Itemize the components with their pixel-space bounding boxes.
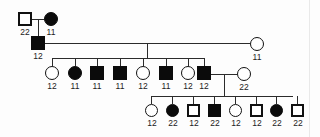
genotype-label-III-3: 11: [87, 82, 107, 91]
sibling-drop-III-2: [75, 58, 76, 66]
sibling-drop-III-4: [120, 58, 121, 66]
individual-III-1-female-unaffected[interactable]: [45, 66, 59, 80]
individual-II-1-male-affected[interactable]: [31, 36, 45, 50]
genotype-label-IV-7: 22: [267, 119, 287, 128]
genotype-label-III-5: 12: [133, 82, 153, 91]
genotype-label-III-4: 11: [110, 82, 130, 91]
sibling-drop-III-6: [166, 58, 167, 66]
genotype-label-IV-2: 22: [163, 119, 183, 128]
individual-IV-1-female-unaffected[interactable]: [145, 104, 158, 117]
descent-line-gen3: [224, 74, 225, 96]
individual-IV-8-male-unaffected[interactable]: [291, 104, 304, 117]
individual-IV-3-male-unaffected[interactable]: [187, 104, 200, 117]
sibling-drop-III-3: [97, 58, 98, 66]
sibling-drop-IV-1: [151, 96, 152, 104]
genotype-label-IV-1: 12: [142, 119, 162, 128]
sibling-drop-IV-4: [214, 96, 215, 104]
genotype-label-IV-5: 12: [226, 119, 246, 128]
sibling-drop-IV-3: [193, 96, 194, 104]
genotype-label-IV-8: 22: [288, 119, 308, 128]
genotype-label-III-6: 11: [156, 82, 176, 91]
individual-III-4-male-affected[interactable]: [113, 66, 127, 80]
individual-III-2-female-affected[interactable]: [68, 66, 82, 80]
individual-II-2-female-unaffected[interactable]: [250, 37, 264, 51]
genotype-label-II-1: 12: [28, 52, 48, 61]
individual-IV-5-female-unaffected[interactable]: [229, 104, 242, 117]
sibling-drop-IV-2: [172, 96, 173, 104]
sibling-drop-IV-7: [276, 96, 277, 104]
individual-IV-6-male-unaffected[interactable]: [250, 104, 263, 117]
individual-III-8-male-affected[interactable]: [197, 66, 211, 80]
individual-I-2-female-affected[interactable]: [44, 12, 58, 26]
individual-III-6-male-affected[interactable]: [159, 66, 173, 80]
individual-IV-7-female-affected[interactable]: [270, 104, 283, 117]
individual-I-1-male-unaffected[interactable]: [18, 12, 32, 26]
genotype-label-III-2: 11: [65, 82, 85, 91]
descent-line-gen1: [38, 19, 39, 36]
genotype-label-II-2: 11: [247, 53, 267, 62]
genotype-label-III-9: 22: [234, 83, 254, 92]
page-seam: [309, 0, 310, 137]
sibling-drop-IV-6: [256, 96, 257, 104]
sibling-drop-IV-5: [235, 96, 236, 104]
individual-IV-4-male-affected[interactable]: [208, 104, 221, 117]
individual-III-5-female-unaffected[interactable]: [136, 66, 150, 80]
sibling-drop-III-7: [188, 58, 189, 66]
individual-III-7-female-unaffected[interactable]: [181, 66, 195, 80]
sibling-drop-III-5: [143, 58, 144, 66]
individual-III-3-male-affected[interactable]: [90, 66, 104, 80]
descent-line-gen2: [147, 43, 148, 58]
genotype-label-IV-6: 12: [247, 119, 267, 128]
genotype-label-IV-4: 22: [205, 119, 225, 128]
individual-III-9-female-unaffected[interactable]: [237, 67, 251, 81]
genotype-label-III-8: 12: [194, 82, 214, 91]
individual-IV-2-female-affected[interactable]: [166, 104, 179, 117]
genotype-label-III-1: 12: [42, 82, 62, 91]
genotype-label-IV-3: 12: [184, 119, 204, 128]
sibling-drop-III-1: [52, 58, 53, 66]
sibling-drop-IV-8: [297, 96, 298, 104]
sibling-drop-III-8: [204, 58, 205, 66]
pedigree-chart: 22 11 12 11 12 11 11 11 12 11 12 12 22: [0, 0, 320, 137]
